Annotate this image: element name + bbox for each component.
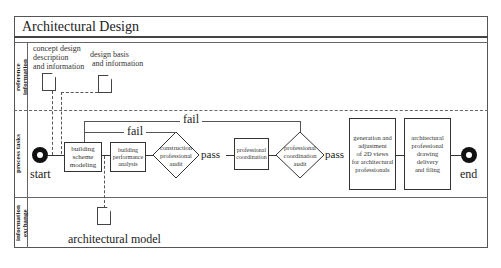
decision-construction-audit-label: construction professional audit — [156, 144, 196, 168]
lane-label-exchange: information exchange — [15, 201, 26, 245]
task-professional-coordination[interactable]: professional coordination — [234, 138, 269, 170]
document-icon — [97, 207, 111, 225]
task-line: adjustment — [352, 142, 394, 150]
flow-line — [226, 155, 234, 156]
fail-loop-outer — [84, 121, 85, 132]
label-line: design basis — [90, 50, 143, 59]
task-line: analysis — [113, 161, 143, 168]
task-line: professionals — [352, 166, 394, 174]
task-line: coordination — [236, 154, 266, 161]
lane-separator-1 — [14, 110, 488, 111]
task-line: of 2D views — [352, 150, 394, 158]
start-node-icon — [32, 147, 48, 163]
decision-line: audit — [156, 160, 196, 168]
decision-line: construction — [156, 144, 196, 152]
fail-label-outer: fail — [180, 112, 202, 127]
document-icon — [42, 73, 56, 91]
flow-line — [48, 155, 64, 156]
ref-doc-2-label: design basis and information — [90, 50, 143, 68]
lane-separator-2 — [14, 197, 488, 198]
dashed-connector — [52, 91, 53, 155]
task-line: architectural — [411, 134, 443, 142]
task-line: modeling — [70, 161, 96, 169]
lane-label-reference: reference information — [15, 48, 26, 106]
task-drawing-delivery-filing[interactable]: architectural professional drawing deliv… — [404, 118, 451, 190]
lane-label-text: reference information — [14, 59, 29, 95]
decision-line: audit — [280, 160, 320, 168]
lane-label-text: process tasks — [14, 135, 22, 174]
flow-line — [396, 155, 404, 156]
task-line: professional — [411, 142, 443, 150]
task-line: for architectural — [352, 158, 394, 166]
flow-line — [451, 155, 461, 156]
task-line: generation and — [352, 134, 394, 142]
title-divider — [14, 42, 488, 43]
decision-line: professional — [280, 144, 320, 152]
dashed-connector — [104, 156, 105, 208]
task-line: drawing — [411, 150, 443, 158]
dashed-connector — [61, 92, 98, 93]
label-line: description — [33, 53, 84, 62]
ref-doc-1-label: concept design description and informati… — [33, 44, 84, 71]
task-generation-2d-views[interactable]: generation and adjustment of 2D views fo… — [349, 118, 396, 190]
task-line: professional — [236, 147, 266, 154]
task-line: building — [70, 145, 96, 153]
task-line: delivery — [411, 158, 443, 166]
task-line: scheme — [70, 153, 96, 161]
task-building-performance-analysis[interactable]: building performance analysis — [110, 142, 146, 172]
dashed-connector — [61, 92, 62, 154]
task-building-scheme-modeling[interactable]: building scheme modeling — [64, 142, 102, 172]
end-label: end — [460, 167, 477, 182]
task-line: building — [113, 147, 143, 154]
decision-line: professional — [156, 152, 196, 160]
task-line: and filing — [411, 166, 443, 174]
pass-label-2: pass — [325, 148, 344, 160]
diagram-title: Architectural Design — [22, 19, 139, 35]
document-icon — [98, 75, 112, 93]
label-line: and information — [33, 62, 84, 71]
exchange-doc-label: architectural model — [68, 232, 161, 247]
fail-loop-inner — [84, 132, 85, 142]
label-line: and information — [90, 59, 143, 68]
pass-label-1: pass — [201, 148, 220, 160]
label-line: concept design — [33, 44, 84, 53]
lane-label-text: information exchange — [14, 205, 29, 241]
end-node-icon — [461, 147, 477, 163]
task-line: performance — [113, 154, 143, 161]
decision-coordination-audit-label: professional coordination audit — [280, 144, 320, 168]
decision-line: coordination — [280, 152, 320, 160]
lane-label-process: process tasks — [15, 118, 26, 190]
start-label: start — [30, 167, 51, 182]
fail-label-inner: fail — [124, 124, 146, 139]
